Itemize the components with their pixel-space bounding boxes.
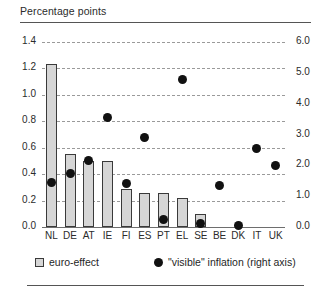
x-axis-tick-nl: NL [45, 230, 58, 241]
chart-figure: Percentage points 0.00.20.40.60.81.01.21… [0, 0, 329, 297]
bar-es [139, 193, 150, 227]
y-axis-left-tick: 1.4 [22, 35, 36, 46]
x-axis-tick-dk: DK [231, 230, 245, 241]
dot-pt [159, 215, 168, 224]
y-axis-left-tick: 1.2 [22, 61, 36, 72]
x-axis-tick-be: BE [213, 230, 226, 241]
x-axis-tick-fi: FI [122, 230, 131, 241]
chart-legend: euro-effect "visible" inflation (right a… [35, 256, 315, 272]
legend-item-euro-effect: euro-effect [35, 256, 99, 268]
x-axis-tick-it: IT [253, 230, 262, 241]
y-axis-right-tick: 4.0 [296, 97, 310, 108]
dot-ie [103, 113, 112, 122]
gridline [42, 148, 285, 149]
y-axis-right-tick: 1.0 [296, 189, 310, 200]
bar-at [83, 161, 94, 227]
x-axis-tick-ie: IE [103, 230, 112, 241]
gridline [42, 95, 285, 96]
chart-axis-title: Percentage points [20, 5, 106, 17]
dot-fi [122, 179, 131, 188]
gridline [42, 68, 285, 69]
y-axis-right-tick: 0.0 [296, 220, 310, 231]
y-axis-right-tick: 6.0 [296, 35, 310, 46]
x-axis-tick-el: EL [176, 230, 188, 241]
dot-it [252, 144, 261, 153]
y-axis-right-tick: 3.0 [296, 128, 310, 139]
gridline [42, 42, 285, 43]
legend-item-visible-inflation: "visible" inflation (right axis) [154, 256, 296, 268]
y-axis-left-tick: 0.0 [22, 220, 36, 231]
y-axis-right-tick: 5.0 [296, 66, 310, 77]
x-axis-tick-se: SE [194, 230, 207, 241]
dot-el [178, 75, 187, 84]
gridline [42, 121, 285, 122]
dot-uk [271, 161, 280, 170]
bar-el [177, 198, 188, 227]
dot-de [66, 169, 75, 178]
legend-label-visible-inflation: "visible" inflation (right axis) [168, 256, 296, 268]
footer-divider [27, 285, 304, 286]
bar-nl [46, 64, 57, 227]
header-divider [20, 22, 311, 23]
dot-dk [234, 221, 243, 230]
dot-be [215, 181, 224, 190]
bar-ie [102, 161, 113, 227]
bar-de [65, 154, 76, 227]
y-axis-left-tick: 0.2 [22, 194, 36, 205]
x-axis-tick-de: DE [63, 230, 77, 241]
x-axis-tick-at: AT [83, 230, 95, 241]
y-axis-right-tick: 2.0 [296, 158, 310, 169]
x-axis-tick-uk: UK [269, 230, 283, 241]
legend-label-euro-effect: euro-effect [49, 256, 99, 268]
x-axis-tick-pt: PT [157, 230, 170, 241]
y-axis-left-tick: 0.8 [22, 114, 36, 125]
y-axis-left-tick: 0.4 [22, 167, 36, 178]
gridline [42, 174, 285, 175]
plot-area: 0.00.20.40.60.81.01.21.40.01.02.03.04.05… [42, 42, 285, 227]
x-axis-tick-es: ES [138, 230, 151, 241]
legend-square-icon [35, 258, 44, 267]
dot-nl [47, 178, 56, 187]
legend-dot-icon [154, 258, 163, 267]
bar-fi [121, 189, 132, 227]
gridline [42, 227, 285, 228]
y-axis-left-tick: 1.0 [22, 88, 36, 99]
y-axis-left-tick: 0.6 [22, 141, 36, 152]
dot-es [140, 133, 149, 142]
